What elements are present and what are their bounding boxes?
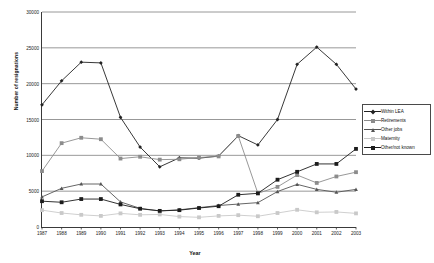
data-point-marker <box>334 210 338 214</box>
chart-legend: Within LEARetirementsOther jobsMaternity… <box>362 104 431 155</box>
data-point-marker <box>40 199 44 203</box>
legend-item-other-not-known[interactable]: Other/not known <box>364 143 428 152</box>
x-tick-label: 1999 <box>272 231 282 236</box>
x-tick-label: 1991 <box>115 231 125 236</box>
x-tick-label: 2001 <box>312 231 322 236</box>
data-point-marker <box>197 156 201 160</box>
x-tick-label: 2000 <box>292 231 302 236</box>
data-point-marker <box>217 204 221 208</box>
y-axis-title: Number of resignations <box>13 31 19 131</box>
x-tick-label: 1995 <box>194 231 204 236</box>
legend-marker-square-icon <box>371 137 375 141</box>
data-point-marker <box>138 207 142 211</box>
data-point-marker <box>99 214 103 218</box>
data-point-marker <box>99 197 103 201</box>
legend-marker-square-icon <box>371 146 375 150</box>
y-tick-label: 0 <box>36 225 39 230</box>
series-line <box>42 47 356 167</box>
data-point-marker <box>315 210 319 214</box>
data-point-marker <box>354 170 358 174</box>
data-point-marker <box>354 211 358 215</box>
data-point-marker <box>119 203 123 207</box>
legend-item-within-lea[interactable]: Within LEA <box>364 107 428 116</box>
legend-marker-triangle-icon <box>371 128 375 132</box>
x-tick-label: 1988 <box>57 231 67 236</box>
x-tick-label: 1987 <box>37 231 47 236</box>
data-point-marker <box>177 208 181 212</box>
data-point-marker <box>217 214 221 218</box>
data-point-marker <box>354 147 358 151</box>
legend-marker-diamond-icon <box>371 109 376 114</box>
data-point-marker <box>236 213 240 217</box>
x-tick-label: 1992 <box>135 231 145 236</box>
data-point-marker <box>217 155 221 159</box>
legend-label: Retirements <box>381 116 406 125</box>
data-point-marker <box>138 213 142 217</box>
series-retirements <box>40 134 358 195</box>
data-point-marker <box>177 157 181 161</box>
data-layer <box>42 12 356 227</box>
data-point-marker <box>197 206 201 210</box>
data-point-marker <box>276 178 280 182</box>
x-tick-label: 2003 <box>351 231 361 236</box>
y-tick-label: 10000 <box>26 153 39 158</box>
data-point-marker <box>158 158 162 162</box>
data-point-marker <box>334 175 338 179</box>
y-tick-label: 25000 <box>26 45 39 50</box>
chart-figure: Number of resignations 05000100001500020… <box>0 0 434 263</box>
data-point-marker <box>197 215 201 219</box>
y-tick-label: 20000 <box>26 81 39 86</box>
data-point-marker <box>236 193 240 197</box>
data-point-marker <box>99 61 103 65</box>
data-point-marker <box>295 208 299 212</box>
data-point-marker <box>295 170 299 174</box>
legend-swatch-icon <box>364 116 381 125</box>
data-point-marker <box>60 200 64 204</box>
legend-swatch-icon <box>364 143 381 152</box>
plot-area: 0500010000150002000025000300001987198819… <box>41 12 356 228</box>
data-point-marker <box>60 141 64 145</box>
legend-swatch-icon <box>364 107 381 116</box>
legend-label: Within LEA <box>381 107 404 116</box>
x-tick-label: 1998 <box>253 231 263 236</box>
data-point-marker <box>276 211 280 215</box>
data-point-marker <box>40 208 44 212</box>
x-tick-label: 1997 <box>233 231 243 236</box>
data-point-marker <box>79 197 83 201</box>
x-tick-label: 2002 <box>331 231 341 236</box>
y-tick-label: 30000 <box>26 10 39 15</box>
legend-label: Other/not known <box>381 143 415 152</box>
data-point-marker <box>60 211 64 215</box>
data-point-marker <box>334 162 338 166</box>
x-tick-label: 1996 <box>214 231 224 236</box>
legend-marker-square-icon <box>371 119 375 123</box>
legend-item-maternity[interactable]: Maternity <box>364 134 428 143</box>
x-axis-title: Year <box>30 250 360 256</box>
data-point-marker <box>79 136 83 140</box>
data-point-marker <box>256 191 260 195</box>
data-point-marker <box>79 213 83 217</box>
x-tick-label: 1994 <box>174 231 184 236</box>
data-point-marker <box>158 209 162 213</box>
legend-swatch-icon <box>364 125 381 134</box>
legend-item-retirements[interactable]: Retirements <box>364 116 428 125</box>
legend-label: Maternity <box>381 134 400 143</box>
x-tick-label: 1993 <box>155 231 165 236</box>
legend-swatch-icon <box>364 134 381 143</box>
data-point-marker <box>177 215 181 219</box>
data-point-marker <box>119 211 123 215</box>
data-point-marker <box>236 134 240 138</box>
x-tick-label: 1989 <box>76 231 86 236</box>
data-point-marker <box>295 182 299 186</box>
data-point-marker <box>99 137 103 141</box>
legend-label: Other jobs <box>381 125 402 134</box>
y-tick-label: 15000 <box>26 117 39 122</box>
series-line <box>42 136 356 193</box>
legend-item-other-jobs[interactable]: Other jobs <box>364 125 428 134</box>
series-within-lea <box>40 45 358 168</box>
data-point-marker <box>40 169 44 173</box>
data-point-marker <box>119 157 123 161</box>
data-point-marker <box>256 214 260 218</box>
data-point-marker <box>315 181 319 185</box>
data-point-marker <box>315 162 319 166</box>
